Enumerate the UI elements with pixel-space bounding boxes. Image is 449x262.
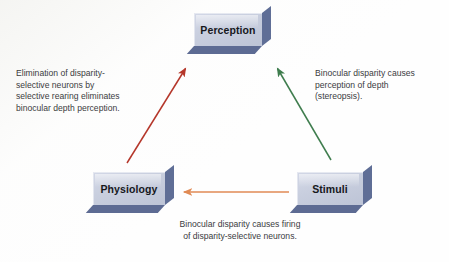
annotation-stimuli-to-physiology: Binocular disparity causes firing of dis… — [125, 219, 355, 242]
node-physiology-bottom-face — [86, 205, 165, 213]
node-stimuli-label: Stimuli — [297, 172, 363, 205]
node-perception-label: Perception — [194, 13, 262, 46]
node-physiology[interactable]: Physiology — [93, 172, 165, 205]
node-perception[interactable]: Perception — [194, 13, 262, 46]
diagram-canvas: Perception Physiology Stimuli Eliminatio… — [0, 0, 449, 262]
node-stimuli[interactable]: Stimuli — [297, 172, 363, 205]
annotation-stimuli-to-perception: Binocular disparity causes perception of… — [315, 68, 443, 103]
annotation-physiology-to-perception: Elimination of disparity- selective neur… — [16, 68, 166, 114]
node-stimuli-bottom-face — [290, 205, 363, 213]
node-physiology-side-face — [165, 165, 174, 205]
node-perception-bottom-face — [187, 46, 262, 54]
node-stimuli-side-face — [363, 165, 372, 205]
node-perception-side-face — [262, 6, 271, 46]
node-physiology-label: Physiology — [93, 172, 165, 205]
